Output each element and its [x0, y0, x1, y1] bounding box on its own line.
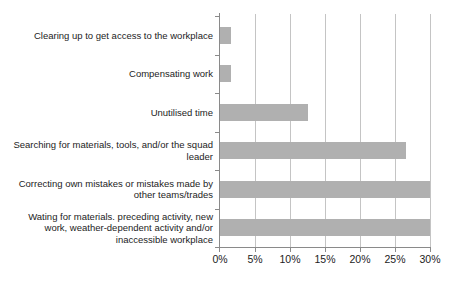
gridline — [255, 14, 256, 247]
x-tick-label: 15% — [308, 253, 342, 265]
y-tick-mark — [215, 170, 219, 171]
category-label: Wating for materials. preceding activity… — [13, 209, 213, 248]
category-label: Compensating work — [13, 55, 213, 94]
x-tick-mark — [219, 248, 220, 252]
y-axis-line — [219, 13, 220, 248]
gridline — [360, 14, 361, 247]
x-tick-mark — [430, 248, 431, 252]
x-tick-label: 20% — [343, 253, 377, 265]
x-tick-mark — [360, 248, 361, 252]
bar — [220, 65, 231, 82]
bar — [220, 104, 308, 121]
bar — [220, 219, 430, 236]
x-tick-label: 10% — [273, 253, 307, 265]
bar — [220, 27, 231, 44]
x-tick-label: 30% — [413, 253, 447, 265]
category-label: Searching for materials, tools, and/or t… — [13, 132, 213, 171]
y-tick-mark — [215, 55, 219, 56]
category-label: Clearing up to get access to the workpla… — [13, 16, 213, 55]
bar — [220, 142, 406, 159]
x-tick-mark — [290, 248, 291, 252]
bar-chart: Clearing up to get access to the workpla… — [0, 0, 457, 282]
y-tick-mark — [215, 93, 219, 94]
category-label: Unutilised time — [13, 93, 213, 132]
gridline — [325, 14, 326, 247]
x-tick-mark — [325, 248, 326, 252]
y-tick-mark — [215, 209, 219, 210]
x-tick-label: 5% — [238, 253, 272, 265]
y-tick-mark — [215, 132, 219, 133]
x-tick-mark — [255, 248, 256, 252]
gridline — [290, 14, 291, 247]
y-tick-mark — [215, 16, 219, 17]
category-label: Correcting own mistakes or mistakes made… — [13, 170, 213, 209]
x-tick-mark — [395, 248, 396, 252]
gridline — [395, 14, 396, 247]
gridline — [430, 14, 431, 247]
x-tick-label: 25% — [378, 253, 412, 265]
bar — [220, 181, 430, 198]
x-tick-label: 0% — [203, 253, 237, 265]
